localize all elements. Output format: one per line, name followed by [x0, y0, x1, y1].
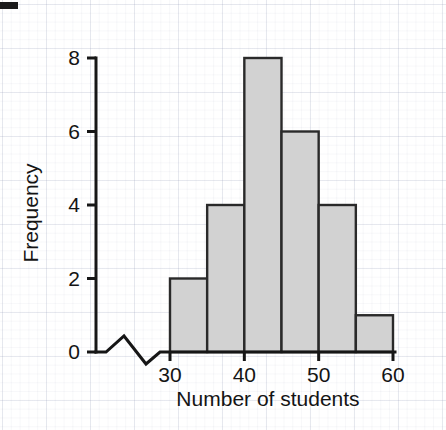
y-axis-tick-label: 2 [68, 267, 80, 290]
bar-series [170, 58, 393, 352]
x-axis-tick-label: 30 [158, 363, 181, 386]
histogram-bar [356, 315, 393, 352]
x-axis-ticks: 30405060 [158, 352, 404, 386]
y-axis-ticks: 02468 [68, 46, 96, 363]
x-axis-title: Number of students [176, 387, 359, 410]
x-axis-tick-label: 60 [381, 363, 404, 386]
histogram-svg: 02468 30405060 Frequency Number of stude… [0, 0, 446, 430]
y-axis-tick-label: 6 [68, 120, 80, 143]
histogram-bar [319, 205, 356, 352]
histogram-bar [282, 132, 319, 353]
histogram-bar [207, 205, 244, 352]
y-axis-title: Frequency [19, 163, 42, 263]
y-axis-tick-label: 4 [68, 193, 80, 216]
histogram-bar [170, 279, 207, 353]
histogram-bar [244, 58, 281, 352]
histogram-figure: 02468 30405060 Frequency Number of stude… [0, 0, 446, 430]
y-axis-tick-label: 8 [68, 46, 80, 69]
y-axis-tick-label: 0 [68, 340, 80, 363]
x-axis-tick-label: 50 [307, 363, 330, 386]
x-axis-tick-label: 40 [233, 363, 256, 386]
